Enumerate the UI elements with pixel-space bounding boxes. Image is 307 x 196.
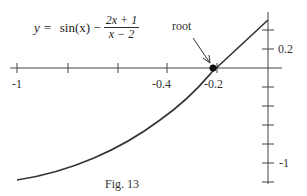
function-curve — [17, 20, 268, 180]
equation-numerator: 2x + 1 — [104, 14, 139, 28]
x-tick-label-neg04: -0.4 — [152, 77, 171, 91]
equation-lhs: y = — [34, 20, 52, 36]
y-tick-label-02: 0.2 — [278, 42, 293, 56]
equation-denominator: x − 2 — [107, 28, 136, 41]
root-point — [210, 65, 217, 72]
figure-caption: Fig. 13 — [105, 177, 139, 192]
x-tick-label-neg1: -1 — [12, 77, 22, 91]
equation-label: y = sin(x) − 2x + 1 x − 2 — [34, 14, 139, 41]
equation-fraction: 2x + 1 x − 2 — [104, 14, 139, 41]
root-annotation: root — [172, 19, 191, 34]
y-tick-label-neg1: -1 — [279, 156, 289, 170]
equation-sin-term: sin(x) − — [60, 20, 101, 36]
root-arrow — [193, 38, 210, 63]
